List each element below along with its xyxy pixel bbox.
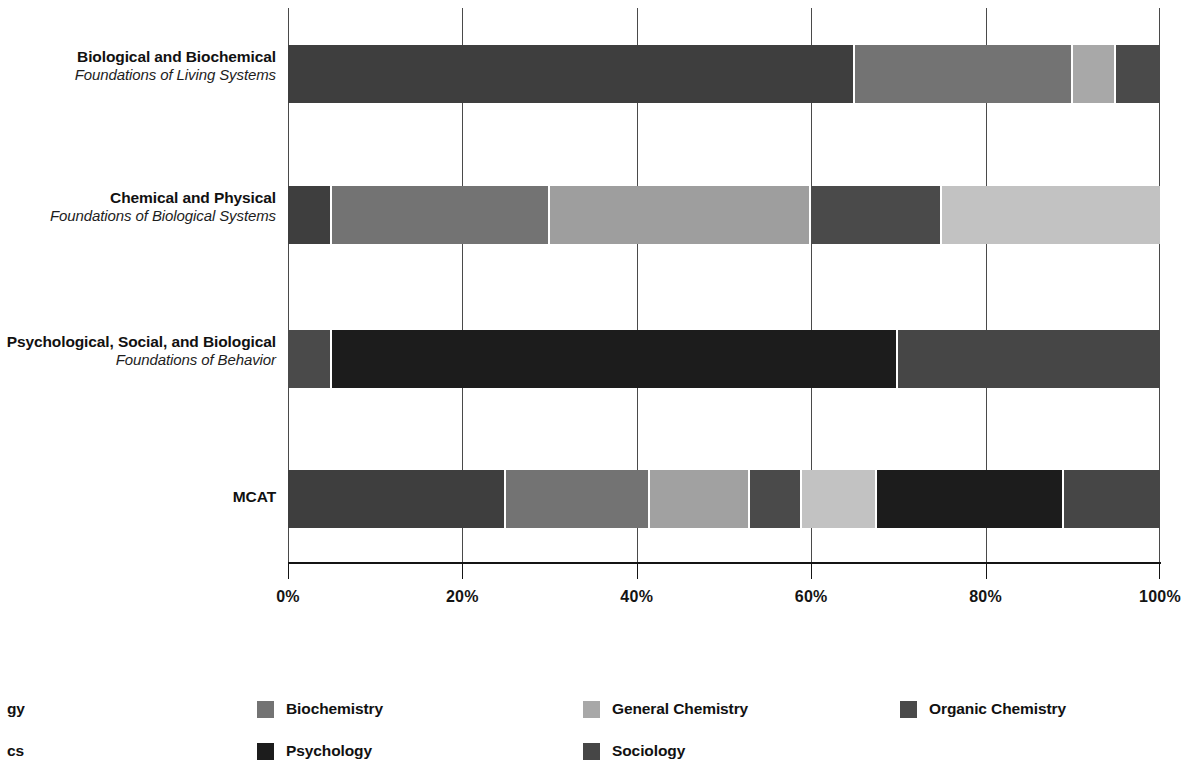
row-label-subtitle: Foundations of Living Systems bbox=[0, 66, 276, 83]
bar-segment-psychology bbox=[877, 470, 1062, 528]
tick-mark bbox=[986, 563, 987, 579]
legend-swatch-icon bbox=[583, 701, 600, 718]
legend-label: cs bbox=[7, 742, 24, 760]
legend-label: General Chemistry bbox=[612, 700, 748, 718]
bar-segment-sociology bbox=[898, 330, 1160, 388]
bar-segment-sociology bbox=[1064, 470, 1160, 528]
bar-segment-biochemistry bbox=[506, 470, 648, 528]
row-label-title: Chemical and Physical bbox=[0, 189, 276, 207]
legend-item-biology[interactable]: gy bbox=[0, 700, 25, 718]
bar-segment-biology bbox=[288, 330, 330, 388]
table-row bbox=[288, 45, 1160, 103]
tick-mark bbox=[288, 563, 289, 579]
row-label: MCAT bbox=[0, 488, 276, 506]
tick-mark bbox=[637, 563, 638, 579]
bar-segment-biochemistry bbox=[332, 186, 548, 244]
x-axis-line bbox=[288, 562, 1161, 564]
legend-item-physics[interactable]: cs bbox=[0, 742, 24, 760]
tick-mark bbox=[1159, 563, 1160, 579]
bar-segment-organic-chemistry bbox=[750, 470, 800, 528]
legend-label: Psychology bbox=[286, 742, 372, 760]
bar-segment-biology bbox=[288, 470, 504, 528]
legend-label: Biochemistry bbox=[286, 700, 383, 718]
x-tick-label: 100% bbox=[1139, 588, 1181, 606]
bar-segment-organic-chemistry bbox=[1116, 45, 1160, 103]
legend-item-psychology[interactable]: Psychology bbox=[257, 742, 372, 760]
legend-label: Organic Chemistry bbox=[929, 700, 1066, 718]
row-label: Chemical and PhysicalFoundations of Biol… bbox=[0, 189, 276, 224]
bar-segment-general-chemistry bbox=[1073, 45, 1115, 103]
legend-swatch-icon bbox=[257, 743, 274, 760]
bar-segment-psychology bbox=[332, 330, 897, 388]
bar-segment-physics bbox=[942, 186, 1160, 244]
bar-segment-organic-chemistry bbox=[811, 186, 940, 244]
row-label-title: Biological and Biochemical bbox=[0, 48, 276, 66]
bar-segment-biochemistry bbox=[855, 45, 1071, 103]
chart-legend: gyBiochemistryGeneral ChemistryOrganic C… bbox=[0, 686, 1166, 768]
bar-segment-physics bbox=[802, 470, 874, 528]
row-label-title: MCAT bbox=[0, 488, 276, 506]
tick-mark bbox=[462, 563, 463, 579]
legend-item-biochemistry[interactable]: Biochemistry bbox=[257, 700, 383, 718]
row-label: Psychological, Social, and BiologicalFou… bbox=[0, 333, 276, 368]
table-row bbox=[288, 186, 1160, 244]
x-tick-label: 80% bbox=[969, 588, 1002, 606]
legend-item-organic-chemistry[interactable]: Organic Chemistry bbox=[900, 700, 1066, 718]
legend-swatch-icon bbox=[257, 701, 274, 718]
bar-segment-biology bbox=[288, 186, 330, 244]
x-tick-label: 60% bbox=[795, 588, 828, 606]
legend-item-general-chemistry[interactable]: General Chemistry bbox=[583, 700, 748, 718]
legend-item-sociology[interactable]: Sociology bbox=[583, 742, 685, 760]
legend-swatch-icon bbox=[583, 743, 600, 760]
legend-swatch-icon bbox=[900, 701, 917, 718]
x-tick-label: 40% bbox=[620, 588, 653, 606]
legend-label: Sociology bbox=[612, 742, 685, 760]
x-tick-label: 20% bbox=[446, 588, 479, 606]
bar-segment-biology bbox=[288, 45, 853, 103]
table-row bbox=[288, 330, 1160, 388]
tick-mark bbox=[811, 563, 812, 579]
row-label-subtitle: Foundations of Behavior bbox=[0, 351, 276, 368]
legend-label: gy bbox=[7, 700, 25, 718]
row-label-subtitle: Foundations of Biological Systems bbox=[0, 207, 276, 224]
table-row bbox=[288, 470, 1160, 528]
row-label: Biological and BiochemicalFoundations of… bbox=[0, 48, 276, 83]
bar-segment-general-chemistry bbox=[550, 186, 810, 244]
bar-segment-general-chemistry bbox=[650, 470, 748, 528]
x-tick-label: 0% bbox=[276, 588, 300, 606]
row-label-title: Psychological, Social, and Biological bbox=[0, 333, 276, 351]
